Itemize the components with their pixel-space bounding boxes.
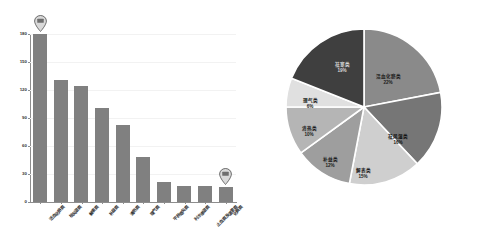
x-axis-tick-mark xyxy=(185,202,186,204)
x-axis-tick-mark xyxy=(61,202,62,204)
y-axis-tick-mark xyxy=(28,34,30,35)
y-axis-tick-label: 30 xyxy=(22,172,27,176)
y-axis-tick-label: 60 xyxy=(22,144,27,148)
bar[interactable] xyxy=(219,187,233,202)
y-axis-tick-label: 180 xyxy=(20,32,27,36)
y-axis-tick-mark xyxy=(28,62,30,63)
x-axis-tick-mark xyxy=(123,202,124,204)
bar[interactable] xyxy=(157,182,171,202)
y-axis-tick-label: 150 xyxy=(20,60,27,64)
x-axis-tick-label: 理气类 xyxy=(150,205,162,217)
bar-chart-plot-area: 0306090120150180活血化瘀类祛风湿类解表类补益类清热类理气类平肝熄… xyxy=(30,34,236,202)
y-axis-tick-mark xyxy=(28,174,30,175)
x-axis-tick-mark xyxy=(226,202,227,204)
gridline xyxy=(30,62,236,63)
bar[interactable] xyxy=(95,108,109,202)
bar[interactable] xyxy=(74,86,88,202)
x-axis-tick-label: 利水渗湿类 xyxy=(193,205,210,222)
pie-chart-svg xyxy=(285,28,443,186)
y-axis-tick-label: 120 xyxy=(20,88,27,92)
gridline xyxy=(30,34,236,35)
x-axis-tick-label: 祛风湿类 xyxy=(69,205,83,219)
x-axis-tick-label: 补益类 xyxy=(109,205,121,217)
x-axis-tick-mark xyxy=(40,202,41,204)
pie-chart-plot-area xyxy=(285,28,443,186)
bar[interactable] xyxy=(198,186,212,202)
y-axis-tick-mark xyxy=(28,202,30,203)
bar[interactable] xyxy=(136,157,150,202)
y-axis-tick-mark xyxy=(28,118,30,119)
figure-container: 0306090120150180活血化瘀类祛风湿类解表类补益类清热类理气类平肝熄… xyxy=(0,0,479,243)
y-axis-tick-label: 0 xyxy=(25,200,27,204)
map-pin-icon[interactable] xyxy=(219,168,232,185)
x-axis-tick-mark xyxy=(143,202,144,204)
x-axis-tick-mark xyxy=(205,202,206,204)
bar[interactable] xyxy=(54,80,68,202)
pie-chart-panel: 活血化瘀类22%祛风湿类16%解表类15%补益类12%清热类10%理气类6%祛寒… xyxy=(250,0,479,243)
x-axis-tick-mark xyxy=(164,202,165,204)
y-axis-tick-mark xyxy=(28,146,30,147)
bar[interactable] xyxy=(116,125,130,202)
bar[interactable] xyxy=(177,186,191,202)
bar-chart-panel: 0306090120150180活血化瘀类祛风湿类解表类补益类清热类理气类平肝熄… xyxy=(0,0,250,243)
y-axis-tick-label: 90 xyxy=(22,116,27,120)
x-axis-tick-mark xyxy=(102,202,103,204)
x-axis-tick-label: 解表类 xyxy=(88,205,100,217)
map-pin-icon[interactable] xyxy=(34,15,47,32)
x-axis-tick-label: 活血化瘀类 xyxy=(49,205,66,222)
x-axis-tick-label: 清热类 xyxy=(129,205,141,217)
bar[interactable] xyxy=(33,34,47,202)
y-axis-tick-mark xyxy=(28,90,30,91)
x-axis-tick-mark xyxy=(82,202,83,204)
x-axis-tick-label: 平肝熄风类 xyxy=(173,205,190,222)
